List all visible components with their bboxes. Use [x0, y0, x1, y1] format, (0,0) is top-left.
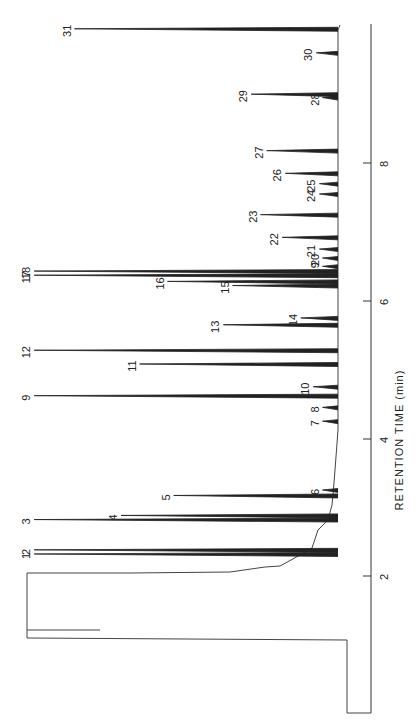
peak — [34, 270, 338, 274]
peak-label: 29 — [237, 90, 249, 102]
peak — [34, 548, 338, 552]
peak — [323, 420, 339, 424]
peak-label: 16 — [154, 277, 166, 289]
peak-label: 18 — [20, 267, 32, 279]
peak — [267, 149, 338, 153]
chromatogram-chart: 2468 RETENTION TIME (min) 12345678910111… — [0, 0, 420, 726]
peak-label: 15 — [219, 281, 231, 293]
peak-label: 31 — [61, 25, 73, 37]
peak-label: 6 — [309, 489, 321, 495]
peak-label: 11 — [126, 360, 138, 371]
peak — [223, 323, 338, 327]
peak-label: 28 — [309, 93, 321, 105]
peak-label: 12 — [20, 346, 32, 358]
peak — [121, 514, 338, 518]
peak — [319, 192, 338, 196]
peak-label: 13 — [209, 321, 221, 333]
peak — [140, 362, 338, 366]
peak — [261, 213, 339, 217]
peak — [319, 182, 338, 186]
peak — [323, 488, 339, 492]
tick-label: 8 — [378, 160, 390, 167]
peak-label: 23 — [247, 211, 259, 223]
peak — [285, 172, 338, 176]
peak — [282, 236, 338, 240]
peak-label: 4 — [107, 514, 119, 520]
injection-step — [27, 573, 371, 713]
peak-label: 27 — [253, 146, 265, 158]
peak-label: 21 — [305, 245, 317, 257]
peak-label: 2 — [20, 549, 32, 555]
peaks — [34, 27, 338, 556]
axis-ticks: 2468 — [363, 160, 390, 580]
peak — [34, 274, 338, 278]
tick-label: 4 — [378, 436, 390, 443]
peak — [316, 51, 338, 55]
peak-label: 22 — [268, 233, 280, 245]
peak — [319, 248, 338, 252]
peak — [34, 394, 338, 398]
peak-label: 30 — [302, 49, 314, 61]
peak — [323, 406, 339, 410]
peak — [75, 27, 339, 31]
peak-label: 8 — [309, 406, 321, 412]
peak-label: 10 — [299, 383, 311, 395]
peak — [34, 518, 338, 522]
peak — [251, 93, 338, 97]
peak-labels: 1234567891011121314151617181920212223242… — [20, 25, 320, 559]
peak-label: 26 — [271, 169, 283, 181]
peak — [34, 552, 338, 556]
peak — [323, 256, 339, 260]
tick-label: 2 — [378, 573, 390, 580]
peak — [34, 349, 338, 353]
peak — [323, 265, 339, 269]
peak-label: 5 — [160, 494, 172, 500]
peak-label: 3 — [20, 518, 32, 524]
peak-label: 7 — [309, 420, 321, 426]
axis-title: RETENTION TIME (min) — [393, 370, 405, 511]
peak-label: 25 — [305, 180, 317, 192]
peak — [168, 280, 339, 284]
peak-label: 9 — [20, 395, 32, 401]
peak — [313, 385, 338, 389]
peak — [301, 316, 338, 320]
peak-label: 14 — [287, 314, 299, 326]
peak — [233, 284, 338, 288]
tick-label: 6 — [378, 298, 390, 305]
